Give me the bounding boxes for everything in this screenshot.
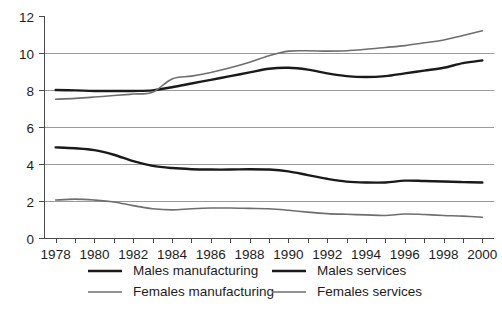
legend-label-males-manufacturing: Males manufacturing: [133, 263, 258, 278]
y-tick-label-12: 12: [19, 10, 34, 25]
y-axis-ticks: 024681012: [19, 10, 44, 247]
x-tick-label-1998: 1998: [429, 247, 459, 262]
x-tick-label-2000: 2000: [467, 247, 497, 262]
x-tick-label-1990: 1990: [273, 247, 303, 262]
gridlines: [44, 54, 494, 202]
x-tick-label-1980: 1980: [79, 247, 109, 262]
x-tick-label-1988: 1988: [235, 247, 265, 262]
y-tick-label-2: 2: [26, 195, 34, 210]
series-line-males-services: [56, 60, 483, 91]
y-tick-label-8: 8: [26, 84, 34, 99]
line-chart: 024681012 197819801982198419861988199019…: [0, 0, 502, 310]
x-axis-ticks: 1978198019821984198619881990199219941996…: [41, 238, 498, 262]
x-tick-label-1982: 1982: [118, 247, 148, 262]
legend-label-females-services: Females services: [317, 284, 422, 299]
y-tick-label-6: 6: [26, 121, 34, 136]
y-tick-label-0: 0: [26, 232, 34, 247]
x-tick-label-1986: 1986: [196, 247, 226, 262]
x-tick-label-1994: 1994: [351, 247, 382, 262]
x-tick-label-1996: 1996: [390, 247, 420, 262]
y-tick-label-4: 4: [26, 158, 34, 173]
x-tick-label-1992: 1992: [312, 247, 342, 262]
legend-label-females-manufacturing: Females manufacturing: [133, 284, 274, 299]
chart-container: 024681012 197819801982198419861988199019…: [0, 0, 502, 310]
chart-legend: Males manufacturingMales servicesFemales…: [88, 263, 422, 299]
data-series: [56, 31, 483, 217]
legend-label-males-services: Males services: [317, 263, 407, 278]
series-line-males-manufacturing: [56, 147, 483, 182]
x-tick-label-1984: 1984: [157, 247, 188, 262]
series-line-females-services: [56, 31, 483, 99]
x-tick-label-1978: 1978: [41, 247, 71, 262]
y-tick-label-10: 10: [19, 47, 34, 62]
